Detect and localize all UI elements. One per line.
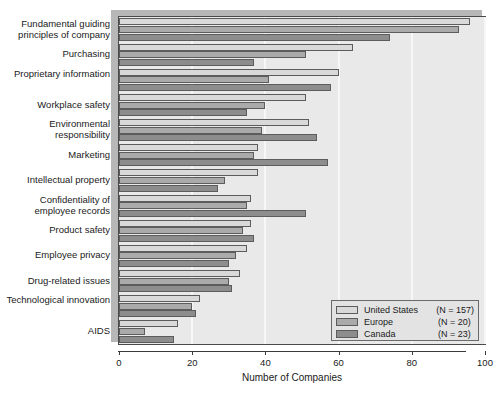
y-axis-label: Proprietary information bbox=[0, 68, 110, 79]
bar bbox=[119, 210, 306, 217]
y-axis-label: Intellectual property bbox=[0, 174, 110, 185]
bar bbox=[119, 235, 254, 242]
bar bbox=[119, 94, 306, 101]
bar bbox=[119, 76, 269, 83]
y-axis-label: Workplace safety bbox=[0, 99, 110, 110]
bar bbox=[119, 310, 196, 317]
bar bbox=[119, 102, 265, 109]
bar bbox=[119, 44, 353, 51]
x-axis-title: Number of Companies bbox=[118, 372, 466, 383]
bar bbox=[119, 328, 145, 335]
bar bbox=[119, 195, 251, 202]
x-tick-label-60: 60 bbox=[333, 357, 344, 368]
x-tick-20 bbox=[192, 351, 193, 355]
bar bbox=[119, 177, 225, 184]
bar bbox=[119, 51, 306, 58]
bar bbox=[119, 26, 459, 33]
bar bbox=[119, 69, 339, 76]
bar bbox=[119, 152, 254, 159]
bar bbox=[119, 260, 229, 267]
legend-label-canada: Canada bbox=[364, 329, 438, 339]
bar bbox=[119, 109, 247, 116]
legend-count-europe: (N = 20) bbox=[438, 317, 471, 327]
x-tick-label-40: 40 bbox=[260, 357, 271, 368]
x-tick-80 bbox=[412, 351, 413, 355]
x-tick-label-80: 80 bbox=[407, 357, 418, 368]
bar bbox=[119, 245, 247, 252]
y-axis-label: Marketing bbox=[0, 149, 110, 160]
bar bbox=[119, 295, 200, 302]
legend-item-europe: Europe (N = 20) bbox=[336, 316, 474, 327]
y-axis-label: Product safety bbox=[0, 224, 110, 235]
x-tick-label-100: 100 bbox=[477, 357, 493, 368]
bar bbox=[119, 169, 258, 176]
bar bbox=[119, 185, 218, 192]
y-axis-label: Fundamental guiding principles of compan… bbox=[0, 18, 110, 40]
bar bbox=[119, 285, 232, 292]
legend-item-united-states: United States (N = 157) bbox=[336, 304, 474, 315]
x-tick-label-20: 20 bbox=[187, 357, 198, 368]
bar bbox=[119, 202, 247, 209]
x-tick-0 bbox=[119, 351, 120, 355]
legend-count-united-states: (N = 157) bbox=[436, 305, 474, 315]
bar bbox=[119, 127, 262, 134]
legend-swatch-canada bbox=[336, 330, 358, 338]
x-tick-100 bbox=[485, 351, 486, 355]
x-tick-label-0: 0 bbox=[116, 357, 121, 368]
bar bbox=[119, 59, 254, 66]
legend-label-united-states: United States bbox=[364, 305, 436, 315]
y-axis-label: AIDS bbox=[0, 325, 110, 336]
bar-chart-figure: Fundamental guiding principles of compan… bbox=[0, 0, 497, 397]
x-tick-40 bbox=[265, 351, 266, 355]
bar bbox=[119, 119, 309, 126]
bar bbox=[119, 252, 236, 259]
y-axis-category-labels: Fundamental guiding principles of compan… bbox=[0, 16, 114, 345]
y-axis-label: Drug-related issues bbox=[0, 275, 110, 286]
legend-swatch-united-states bbox=[336, 306, 358, 314]
legend-label-europe: Europe bbox=[364, 317, 438, 327]
legend-count-canada: (N = 23) bbox=[438, 329, 471, 339]
bar bbox=[119, 220, 251, 227]
y-axis-label: Purchasing bbox=[0, 48, 110, 59]
legend-item-canada: Canada (N = 23) bbox=[336, 328, 474, 339]
x-tick-60 bbox=[339, 351, 340, 355]
bar bbox=[119, 134, 317, 141]
bar bbox=[119, 303, 192, 310]
bar bbox=[119, 270, 240, 277]
bar bbox=[119, 227, 243, 234]
plot-area bbox=[118, 16, 486, 345]
bars-layer bbox=[119, 17, 485, 344]
bar bbox=[119, 278, 229, 285]
bar bbox=[119, 18, 470, 25]
y-axis-label: Confidentiality of employee records bbox=[0, 194, 110, 216]
y-axis-label: Employee privacy bbox=[0, 249, 110, 260]
bar bbox=[119, 34, 390, 41]
bar bbox=[119, 320, 178, 327]
x-axis-line bbox=[118, 351, 466, 352]
bar bbox=[119, 144, 258, 151]
bar bbox=[119, 159, 328, 166]
y-axis-label: Environmental responsibility bbox=[0, 118, 110, 140]
bar bbox=[119, 84, 331, 91]
chart-legend: United States (N = 157) Europe (N = 20) … bbox=[331, 300, 479, 341]
y-axis-label: Technological innovation bbox=[0, 294, 110, 305]
legend-swatch-europe bbox=[336, 318, 358, 326]
bar bbox=[119, 336, 174, 343]
